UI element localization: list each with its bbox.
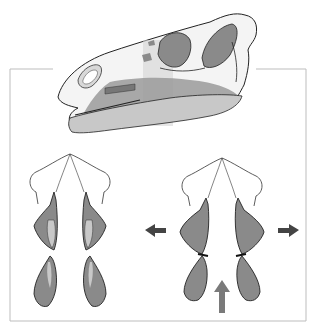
arrow-up-icon [214,280,230,313]
skull-illustration [58,14,257,133]
arrow-left-icon [145,224,166,237]
jaw-diagram-chewing [180,158,264,301]
figure-canvas [0,0,310,327]
jaw-diagram-rest [30,154,110,307]
arrow-right-icon [278,224,299,237]
